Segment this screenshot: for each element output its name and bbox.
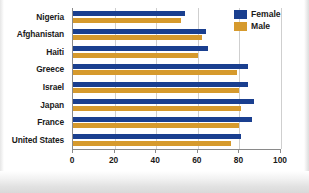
legend-swatch-icon (234, 10, 247, 19)
page-bottom-shadow (0, 171, 309, 193)
legend-item[interactable]: Female (234, 10, 304, 19)
bar-group (73, 96, 281, 114)
bar-male (73, 106, 241, 111)
category-label: Greece (2, 61, 68, 79)
x-tick-label: 40 (151, 155, 160, 165)
category-label: Israel (2, 79, 68, 97)
category-label: Afghanistan (2, 26, 68, 44)
x-tick-label: 0 (70, 155, 75, 165)
bar-female (73, 82, 248, 87)
bar-female (73, 117, 252, 122)
legend-item[interactable]: Male (234, 22, 304, 31)
bar-female (73, 64, 248, 69)
x-tick-label: 60 (192, 155, 201, 165)
bar-male (73, 141, 231, 146)
bar-female (73, 46, 208, 51)
bar-female (73, 11, 185, 16)
bar-female (73, 29, 206, 34)
chart-legend: FemaleMale (234, 10, 304, 34)
bar-group (73, 131, 281, 149)
category-label: Haiti (2, 43, 68, 61)
legend-label: Male (251, 22, 270, 31)
legend-swatch-icon (234, 22, 247, 31)
bar-male (73, 88, 239, 93)
x-tick (238, 150, 239, 153)
plot-wrapper: NigeriaAfghanistanHaitiGreeceIsraelJapan… (0, 0, 309, 172)
bar-female (73, 99, 254, 104)
category-axis: NigeriaAfghanistanHaitiGreeceIsraelJapan… (2, 8, 68, 149)
bar-male (73, 18, 181, 23)
x-tick-label: 20 (109, 155, 118, 165)
x-axis-ticks: 020406080100 (72, 150, 280, 155)
bar-male (73, 35, 202, 40)
bar-male (73, 53, 198, 58)
chart-figure: NigeriaAfghanistanHaitiGreeceIsraelJapan… (0, 0, 309, 193)
x-tick (197, 150, 198, 153)
bar-group (73, 61, 281, 79)
bar-male (73, 123, 239, 128)
bar-group (73, 43, 281, 61)
x-tick (280, 150, 281, 153)
x-tick (114, 150, 115, 153)
legend-label: Female (251, 10, 281, 19)
bar-female (73, 134, 241, 139)
x-tick (155, 150, 156, 153)
bar-male (73, 70, 237, 75)
category-label: Japan (2, 96, 68, 114)
x-tick-label: 80 (234, 155, 243, 165)
category-label: United States (2, 131, 68, 149)
bar-group (73, 79, 281, 97)
bar-group (73, 114, 281, 132)
x-tick (72, 150, 73, 153)
category-label: Nigeria (2, 8, 68, 26)
category-label: France (2, 114, 68, 132)
x-tick-label: 100 (273, 155, 287, 165)
